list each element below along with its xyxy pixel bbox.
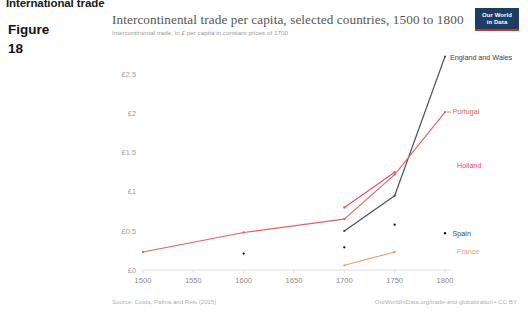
series-data-point[interactable] [394, 195, 396, 197]
figure-label-word: Figure [8, 22, 49, 37]
series-data-point[interactable] [394, 224, 396, 226]
x-axis-tick-label: 1500 [135, 276, 152, 285]
series-data-point[interactable] [343, 206, 345, 208]
y-axis-tick-label: £1.5 [122, 148, 136, 157]
series-end-label[interactable]: Spain [453, 229, 471, 238]
chart-source: Source: Costa, Palma and Reis (2015) [112, 298, 216, 305]
y-axis-tick-label: £2 [128, 109, 136, 118]
y-axis-tick-label: £0.5 [122, 227, 136, 236]
series-data-point[interactable] [243, 231, 245, 233]
series-data-point[interactable] [444, 55, 446, 57]
series-line[interactable] [344, 57, 445, 231]
line-chart-svg: £0£0.5£1£1.5£2£2.51500155016001650170017… [103, 5, 523, 310]
chart-credit[interactable]: OurWorldInData.org/trade-and-globalizati… [375, 298, 517, 305]
series-data-point[interactable] [394, 251, 396, 253]
series-data-point[interactable] [343, 230, 345, 232]
series-line[interactable] [344, 252, 394, 265]
series-data-point[interactable] [394, 171, 396, 173]
figure-label-number: 18 [8, 41, 23, 56]
x-axis-tick-label: 1550 [185, 276, 202, 285]
series-data-point[interactable] [343, 246, 345, 248]
series-data-point[interactable] [343, 218, 345, 220]
series-line[interactable] [344, 172, 394, 207]
series-end-label[interactable]: France [457, 247, 479, 256]
figure-page: International trade Figure 18 Interconti… [0, 0, 528, 315]
series-data-point[interactable] [243, 252, 245, 254]
y-axis-tick-label: £1 [128, 187, 136, 196]
x-axis-tick-label: 1600 [235, 276, 252, 285]
x-axis-tick-label: 1750 [386, 276, 403, 285]
series-end-label[interactable]: Holland [457, 161, 481, 170]
x-axis-tick-label: 1700 [336, 276, 353, 285]
x-axis-tick-label: 1650 [286, 276, 303, 285]
plot-area: £0£0.5£1£1.5£2£2.51500155016001650170017… [103, 5, 523, 310]
series-data-point[interactable] [394, 173, 396, 175]
series-data-point[interactable] [343, 264, 345, 266]
y-axis-tick-label: £0 [128, 266, 136, 275]
series-end-label[interactable]: Portugal [453, 107, 480, 116]
series-data-point[interactable] [444, 111, 446, 113]
series-end-label[interactable]: England and Wales [450, 53, 512, 62]
x-axis-tick-label: 1800 [437, 276, 454, 285]
series-data-point[interactable] [142, 251, 144, 253]
series-data-point[interactable] [444, 232, 446, 234]
chart-card: Intercontinental trade per capita, selec… [103, 5, 523, 310]
y-axis-tick-label: £2.5 [122, 70, 136, 79]
